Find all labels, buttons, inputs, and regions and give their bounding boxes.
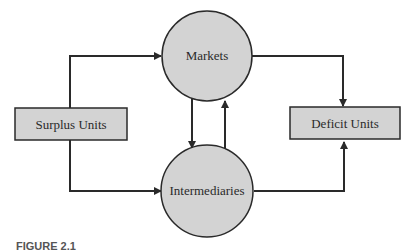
node-deficit-units: Deficit Units [290, 107, 400, 139]
node-markets: Markets [162, 11, 252, 101]
arrow-intermediaries-to-deficit [254, 142, 344, 191]
figure-caption: FIGURE 2.1 [16, 240, 96, 250]
markets-label: Markets [186, 48, 229, 63]
intermediaries-label: Intermediaries [169, 183, 244, 198]
node-intermediaries: Intermediaries [161, 145, 253, 237]
arrow-markets-to-deficit [252, 56, 343, 106]
surplus-units-label: Surplus Units [35, 117, 106, 132]
deficit-units-label: Deficit Units [311, 116, 379, 131]
node-surplus-units: Surplus Units [15, 108, 127, 140]
arrow-surplus-to-markets [70, 56, 161, 108]
arrow-surplus-to-intermediaries [70, 140, 161, 191]
